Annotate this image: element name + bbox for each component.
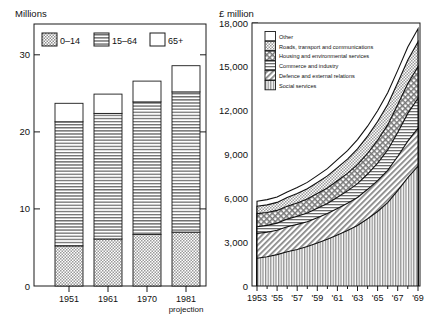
bar-1970 (133, 81, 161, 286)
right-xtick-57: '57 (291, 293, 303, 303)
legend-swatch-defence-external (265, 71, 276, 80)
right-x-axis: 1953 '55 '57 '59 '61 '63 '65 '67 '69 (247, 286, 424, 303)
figure-page: Millions 30 20 10 0 0–14 15–64 65+ (0, 0, 427, 315)
left-ytick-20: 20 (19, 126, 30, 137)
right-xtick-55: '55 (271, 293, 283, 303)
left-ytick-30: 30 (19, 49, 30, 60)
legend-swatch-housing-environmental (265, 51, 276, 60)
public-expenditure-area-chart: £ million 18,000 15,000 12,000 9,000 6,0… (213, 0, 427, 315)
population-bar-chart: Millions 30 20 10 0 0–14 15–64 65+ (0, 0, 213, 315)
projection-note: projection (169, 305, 204, 314)
left-ytick-10: 10 (19, 203, 30, 214)
left-x-axis: 1951 1961 1970 1981 projection (59, 286, 203, 314)
right-ytick-15000: 15,000 (219, 61, 248, 72)
right-xtick-69: '69 (412, 293, 424, 303)
legend-swatch-roads-transport (265, 41, 276, 50)
right-xtick-65: '65 (372, 293, 384, 303)
legend-label-15-64: 15–64 (112, 36, 137, 46)
legend-label-defence-external: Defence and external relations (279, 73, 355, 79)
legend-label-commerce-industry: Commerce and industry (279, 63, 339, 69)
left-y-axis-title: Millions (15, 8, 47, 19)
bar-1961 (94, 94, 122, 286)
legend-label-housing-environmental: Housing and environmental services (279, 53, 369, 59)
right-xtick-59: '59 (311, 293, 323, 303)
right-ytick-12000: 12,000 (219, 105, 248, 116)
legend-label-social-services: Social services (279, 83, 317, 89)
legend-label-other: Other (279, 34, 293, 40)
right-ytick-0: 0 (243, 281, 248, 292)
bar-1951 (55, 103, 83, 286)
right-ytick-6000: 6,000 (224, 193, 248, 204)
legend-swatch-commerce-industry (265, 61, 276, 70)
right-xtick-61: '61 (332, 293, 344, 303)
right-xtick-1953: 1953 (247, 293, 267, 303)
legend-label-roads-transport: Roads, transport and communications (279, 44, 373, 50)
left-ytick-0: 0 (25, 281, 30, 292)
right-ytick-3000: 3,000 (224, 237, 248, 248)
left-xtick-1981: 1981 (176, 294, 196, 304)
legend-label-0-14: 0–14 (60, 36, 80, 46)
left-xtick-1961: 1961 (98, 294, 118, 304)
right-ytick-9000: 9,000 (224, 149, 248, 160)
left-xtick-1970: 1970 (137, 294, 157, 304)
legend-label-65-plus: 65+ (168, 36, 183, 46)
right-xtick-63: '63 (352, 293, 364, 303)
legend-swatch-social-services (265, 81, 276, 90)
legend-swatch-15-64 (94, 33, 109, 46)
legend-swatch-other (265, 32, 276, 41)
legend-swatch-65-plus (150, 33, 165, 46)
right-ytick-18000: 18,000 (219, 18, 248, 29)
legend-swatch-0-14 (42, 33, 57, 46)
right-xtick-67: '67 (392, 293, 404, 303)
left-xtick-1951: 1951 (59, 294, 79, 304)
bar-1981 (172, 66, 200, 286)
